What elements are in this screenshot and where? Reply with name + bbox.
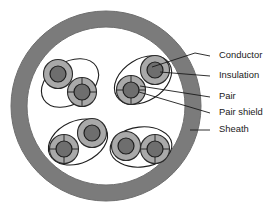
sheath-ring — [11, 11, 201, 201]
conductor-assembly-2 — [50, 135, 79, 164]
conductor-circle — [74, 84, 90, 100]
conductor-assembly-1 — [78, 119, 107, 148]
conductor-circle — [118, 138, 134, 154]
conductor-assembly-2 — [117, 76, 146, 105]
label-pair-shield: Pair shield — [219, 106, 263, 117]
conductor-assembly-2 — [141, 135, 170, 164]
diagram-canvas: ConductorInsulationPairPair shieldSheath — [0, 0, 279, 214]
label-insulation: Insulation — [219, 69, 259, 80]
label-sheath: Sheath — [219, 123, 249, 134]
conductor-circle — [50, 66, 66, 82]
conductor-circle — [123, 82, 139, 98]
callout-labels: ConductorInsulationPairPair shieldSheath — [219, 49, 263, 134]
conductor-assembly-1 — [112, 132, 141, 161]
cable-cross-section-diagram: ConductorInsulationPairPair shieldSheath — [0, 0, 279, 214]
conductor-assembly-2 — [68, 78, 97, 107]
conductor-circle — [84, 125, 100, 141]
label-conductor: Conductor — [219, 49, 262, 60]
conductor-assembly-1 — [44, 60, 73, 89]
label-pair: Pair — [219, 90, 236, 101]
conductor-circle — [56, 141, 72, 157]
conductor-circle — [147, 141, 163, 157]
conductor-assembly-1 — [141, 56, 170, 85]
